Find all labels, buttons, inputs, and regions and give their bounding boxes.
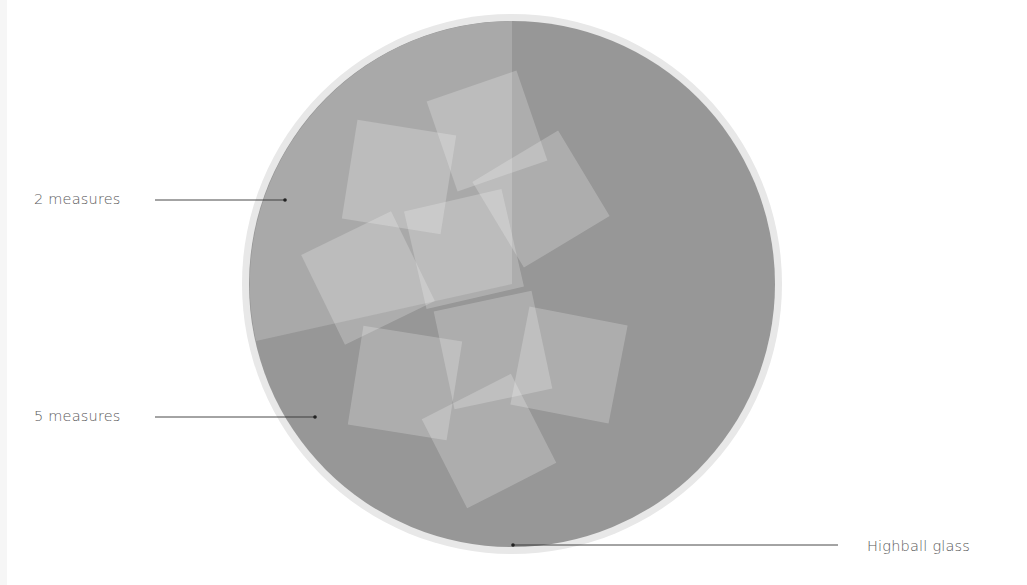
- label-highball-glass: Highball glass: [867, 539, 970, 554]
- leader-dot: [283, 198, 287, 202]
- leader-dot: [313, 415, 317, 419]
- glass-diagram: [0, 0, 1027, 585]
- label-five-measures: 5 measures: [34, 409, 121, 424]
- ice-cube: [510, 306, 627, 423]
- leader-dot: [511, 543, 515, 547]
- label-two-measures: 2 measures: [34, 192, 121, 207]
